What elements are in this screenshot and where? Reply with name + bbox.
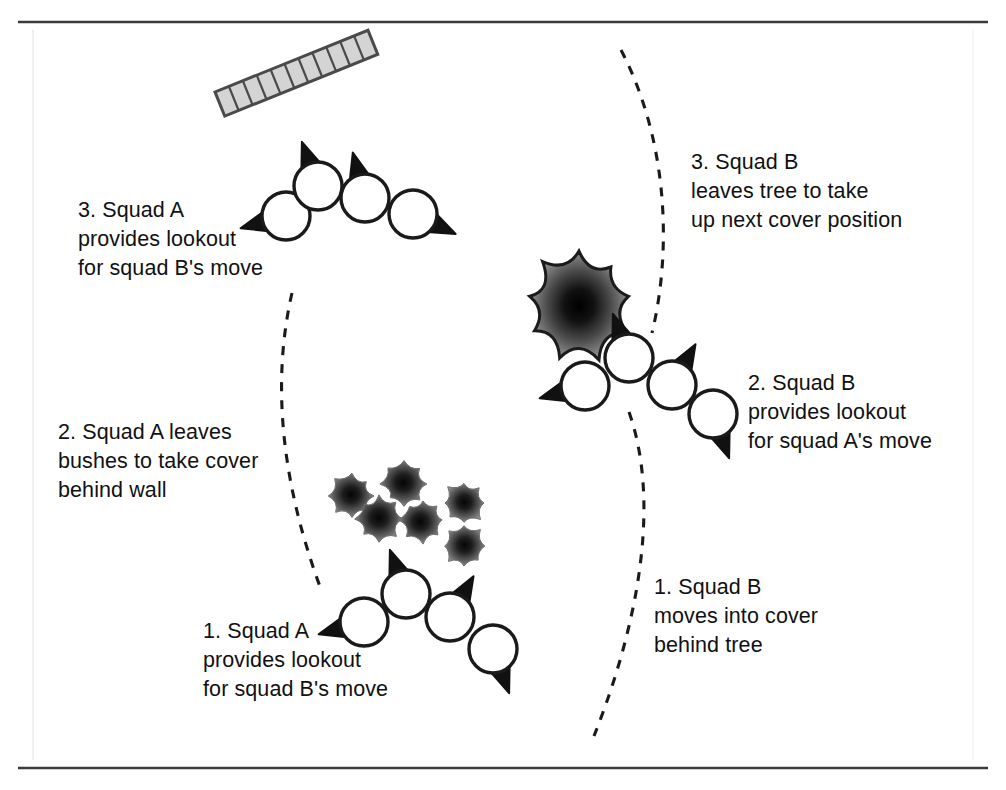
squad-b-move-path-upper — [621, 50, 663, 333]
caption-line: for squad B's move — [203, 675, 388, 704]
diagram-root: 3. Squad Aprovides lookoutfor squad B's … — [0, 0, 1006, 790]
caption-squad-a-step-3: 3. Squad Aprovides lookoutfor squad B's … — [78, 196, 263, 283]
caption-line: bushes to take cover — [58, 447, 258, 476]
caption-line: behind tree — [654, 631, 818, 660]
soldier-marker — [426, 576, 474, 641]
caption-line: 3. Squad B — [691, 148, 902, 177]
caption-line: provides lookout — [748, 398, 932, 427]
caption-line: behind wall — [58, 476, 258, 505]
caption-line: provides lookout — [203, 646, 388, 675]
bush-cluster — [328, 461, 485, 566]
soldier-marker — [389, 190, 456, 238]
soldier-body — [382, 570, 430, 618]
soldier-marker — [605, 314, 653, 382]
soldier-body — [426, 593, 474, 641]
soldier-marker — [648, 344, 696, 409]
caption-squad-b-step-1: 1. Squad Bmoves into coverbehind tree — [654, 573, 818, 660]
caption-squad-b-step-3: 3. Squad Bleaves tree to takeup next cov… — [691, 148, 902, 235]
soldier-body — [648, 361, 696, 409]
soldier-marker — [689, 390, 737, 458]
squad-b-move-path-lower — [594, 412, 644, 736]
soldier-marker — [540, 362, 609, 410]
caption-line: moves into cover — [654, 602, 818, 631]
caption-line: for squad B's move — [78, 254, 263, 283]
caption-squad-a-step-2: 2. Squad A leavesbushes to take coverbeh… — [58, 418, 258, 505]
caption-squad-a-step-1: 1. Squad Aprovides lookoutfor squad B's … — [203, 617, 388, 704]
caption-line: for squad A's move — [748, 427, 932, 456]
soldier-body — [561, 362, 609, 410]
soldier-body — [689, 390, 737, 438]
caption-line: 3. Squad A — [78, 196, 263, 225]
soldier-body — [341, 174, 389, 222]
soldier-body — [469, 625, 517, 673]
caption-line: up next cover position — [691, 206, 902, 235]
caption-line: 2. Squad A leaves — [58, 418, 258, 447]
caption-line: 2. Squad B — [748, 369, 932, 398]
caption-line: provides lookout — [78, 225, 263, 254]
soldier-group-squad-a-upper — [241, 142, 456, 240]
wall-outline — [215, 30, 378, 116]
bush — [445, 483, 484, 522]
soldier-marker — [382, 550, 430, 618]
caption-line: leaves tree to take — [691, 177, 902, 206]
bush — [380, 461, 427, 507]
soldier-body — [389, 190, 437, 238]
caption-line: 1. Squad A — [203, 617, 388, 646]
soldier-marker — [294, 142, 342, 210]
caption-squad-b-step-2: 2. Squad Bprovides lookoutfor squad A's … — [748, 369, 932, 456]
wall — [215, 30, 378, 116]
squad-a-move-path — [282, 293, 322, 592]
soldier-marker — [341, 153, 389, 222]
bush — [445, 526, 485, 566]
bush — [399, 501, 443, 544]
soldier-body — [605, 334, 653, 382]
wall-body — [215, 30, 378, 116]
soldier-body — [294, 162, 342, 210]
soldier-marker — [469, 625, 517, 693]
caption-line: 1. Squad B — [654, 573, 818, 602]
